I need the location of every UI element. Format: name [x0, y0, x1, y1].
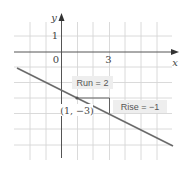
x-axis — [14, 49, 179, 55]
x-axis-arrow-icon — [171, 49, 179, 55]
rise-label: Rise = −1 — [121, 102, 160, 112]
run-label: Run = 2 — [77, 78, 109, 88]
y-tick-1: 1 — [52, 30, 58, 41]
y-axis — [59, 13, 65, 158]
origin-label: 0 — [53, 54, 59, 65]
y-axis-arrow-icon — [59, 13, 65, 21]
grid-lines — [14, 22, 172, 160]
coordinate-plane: y x 1 0 3 Run = 2 Rise = −1 (1, −3) — [0, 0, 193, 170]
x-axis-label: x — [172, 57, 178, 68]
point-label: (1, −3) — [60, 105, 94, 116]
point-marker — [75, 96, 78, 99]
x-tick-3: 3 — [105, 54, 111, 65]
y-axis-label: y — [50, 12, 57, 23]
